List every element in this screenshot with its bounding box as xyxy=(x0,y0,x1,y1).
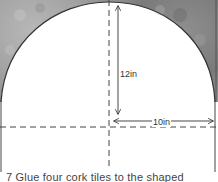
arch-template-diagram xyxy=(0,0,218,182)
step-caption: 7 Glue four cork tiles to the shaped xyxy=(6,171,184,182)
height-dimension-label: 12in xyxy=(119,69,138,79)
width-dimension-label: 10in xyxy=(152,117,171,127)
